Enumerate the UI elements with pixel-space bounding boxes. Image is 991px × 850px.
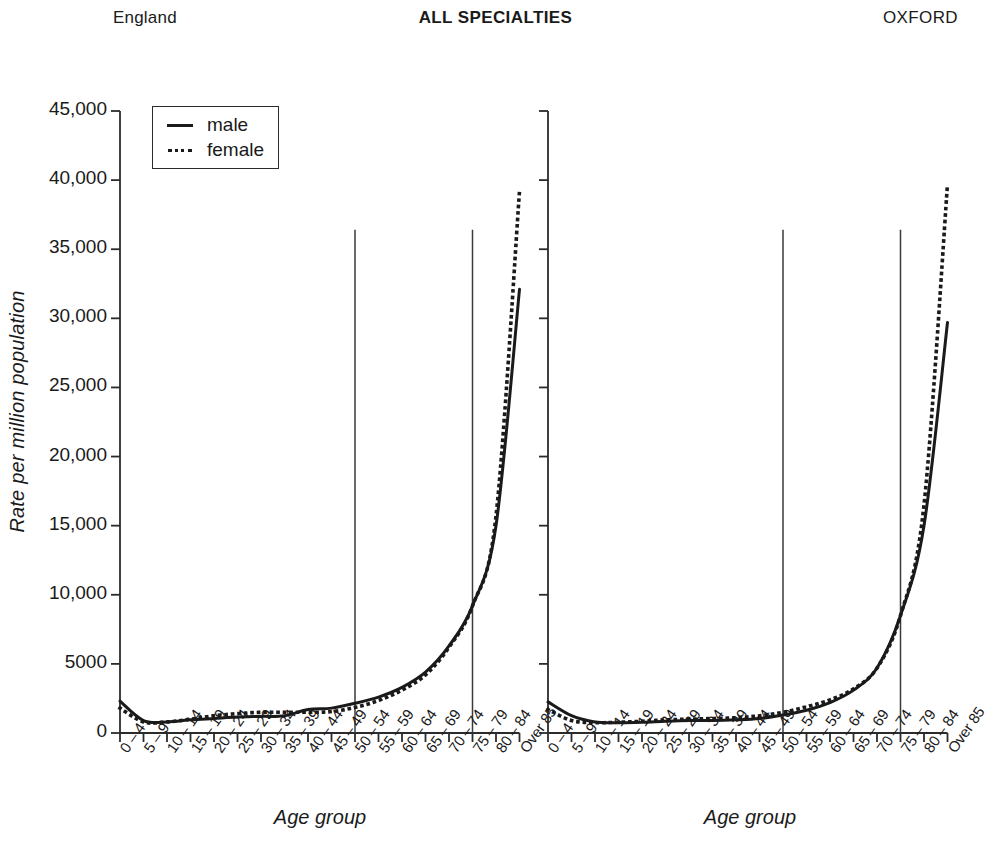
x-axis-title-england: Age group — [120, 806, 520, 829]
oxford-plot-area — [530, 0, 991, 760]
chart-panel-oxford: 0 – 45 – 910 – 1415 – 1920 – 2425 – 2930… — [530, 0, 991, 850]
legend-item-male: male — [163, 112, 264, 137]
y-axis-tick-label: 25,000 — [0, 374, 107, 396]
x-axis-title-oxford: Age group — [540, 806, 960, 829]
legend-swatch-male-solid-line — [163, 118, 197, 132]
series-line-female — [120, 191, 520, 723]
legend: male female — [152, 106, 279, 169]
legend-label-female: female — [207, 139, 264, 161]
y-axis-tick-label: 35,000 — [0, 236, 107, 258]
series-line-female — [548, 184, 948, 722]
y-axis-tick-label: 0 — [0, 720, 107, 742]
y-axis-tick-label: 45,000 — [0, 98, 107, 120]
y-axis-tick-label: 10,000 — [0, 582, 107, 604]
legend-item-female: female — [163, 137, 264, 162]
y-axis-tick-label: 5000 — [0, 651, 107, 673]
y-axis-tick-label: 40,000 — [0, 167, 107, 189]
legend-swatch-female-dotted-line — [163, 143, 197, 157]
y-axis-tick-label: 20,000 — [0, 444, 107, 466]
legend-label-male: male — [207, 114, 248, 136]
y-axis-tick-label: 30,000 — [0, 305, 107, 327]
series-line-male — [548, 322, 948, 722]
figure-root: England ALL SPECIALTIES OXFORD Rate per … — [0, 0, 991, 850]
y-axis-tick-label: 15,000 — [0, 513, 107, 535]
series-line-male — [120, 289, 520, 722]
chart-panel-england: Rate per million population 0500010,0001… — [0, 0, 530, 850]
